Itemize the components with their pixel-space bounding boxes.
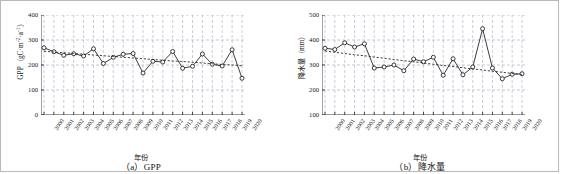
y-tick-label: 300 (297, 62, 319, 69)
x-tick-label: 2001 (63, 118, 75, 131)
chart-panel-precipitation: 降水量（mm） 10020030040050020002001200220032… (280, 1, 560, 173)
x-tick-label: 2004 (374, 118, 386, 131)
x-tick-label: 2020 (531, 118, 543, 131)
chart-panel-gpp: GPP（gC·m-2·a-1） 010020030040020002001200… (1, 1, 281, 173)
x-tick-label: 2018 (511, 118, 523, 131)
x-tick-label: 2004 (93, 118, 105, 131)
x-tick-label: 2008 (413, 118, 425, 131)
x-tick-label: 2013 (182, 118, 194, 131)
x-tick-label: 2017 (502, 118, 514, 131)
x-tick-label: 2006 (393, 118, 405, 131)
y-tick-label: 200 (297, 87, 319, 94)
x-tick-label: 2012 (172, 118, 184, 131)
y-tick-label: 0 (16, 112, 38, 119)
caption-precipitation: （b）降水量 (280, 160, 560, 173)
x-tick-label: 2016 (212, 118, 224, 131)
x-tick-label: 2005 (383, 118, 395, 131)
x-tick-label: 2003 (83, 118, 95, 131)
x-tick-label: 2019 (241, 118, 253, 131)
y-tick-label: 500 (297, 12, 319, 19)
x-tick-label: 2015 (482, 118, 494, 131)
x-tick-label: 2007 (403, 118, 415, 131)
x-tick-label: 2015 (202, 118, 214, 131)
x-tick-label: 2013 (462, 118, 474, 131)
x-tick-label: 2018 (231, 118, 243, 131)
x-tick-label: 2011 (162, 118, 174, 131)
x-tick-label: 2009 (423, 118, 435, 131)
x-tick-label: 2005 (103, 118, 115, 131)
x-tick-label: 2006 (113, 118, 125, 131)
y-tick-label: 400 (297, 37, 319, 44)
plot-area-gpp: 0100200300400200020012002200320042005200… (41, 15, 245, 115)
x-tick-label: 2014 (472, 118, 484, 131)
x-tick-label: 2000 (53, 118, 65, 131)
chart-svg-precipitation (322, 15, 525, 115)
x-tick-label: 2014 (192, 118, 204, 131)
x-tick-label: 2000 (334, 118, 346, 131)
y-tick-label: 100 (16, 87, 38, 94)
x-tick-label: 2008 (132, 118, 144, 131)
x-tick-label: 2012 (452, 118, 464, 131)
x-tick-label: 2002 (354, 118, 366, 131)
figure-container: GPP（gC·m-2·a-1） 010020030040020002001200… (0, 0, 559, 172)
x-tick-label: 2007 (122, 118, 134, 131)
x-tick-label: 2002 (73, 118, 85, 131)
x-tick-label: 2010 (152, 118, 164, 131)
x-tick-label: 2009 (142, 118, 154, 131)
y-tick-label: 300 (16, 37, 38, 44)
x-tick-label: 2020 (251, 118, 263, 131)
caption-gpp: （a）GPP (1, 160, 281, 173)
y-tick-label: 400 (16, 12, 38, 19)
chart-svg-gpp (41, 15, 245, 115)
plot-area-precipitation: 1002003004005002000200120022003200420052… (322, 15, 525, 115)
y-tick-label: 100 (297, 112, 319, 119)
x-tick-label: 2017 (221, 118, 233, 131)
y-tick-label: 200 (16, 62, 38, 69)
x-tick-label: 2019 (521, 118, 533, 131)
x-tick-label: 2001 (344, 118, 356, 131)
